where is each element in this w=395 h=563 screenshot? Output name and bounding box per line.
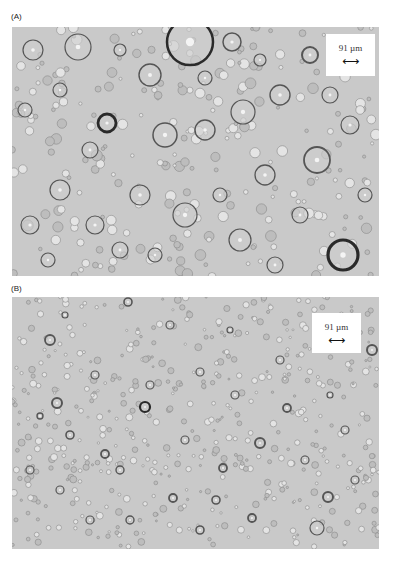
scale-bar-b: 91 µm ⟷ (312, 313, 361, 353)
panel-a-label: (A) (11, 12, 22, 21)
panel-b-label: (B) (11, 284, 22, 293)
bubble-field-a (12, 27, 379, 276)
scale-bar-a: 91 µm ⟷ (326, 34, 375, 76)
scale-bar-a-text: 91 µm (326, 43, 375, 53)
double-arrow-icon: ⟷ (326, 55, 375, 67)
micrograph-panel-b: 91 µm ⟷ (12, 297, 379, 549)
micrograph-panel-a: 91 µm ⟷ (12, 27, 379, 276)
scale-bar-b-text: 91 µm (312, 322, 361, 332)
double-arrow-icon: ⟷ (312, 334, 361, 346)
